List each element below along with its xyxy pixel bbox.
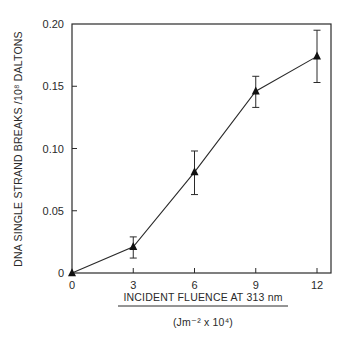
- error-bars: [130, 30, 321, 258]
- x-tick-label: 0: [69, 279, 75, 291]
- x-tick-label: 9: [253, 279, 259, 291]
- chart: 036912 00.050.100.150.20 DNA SINGLE STRA…: [0, 0, 349, 348]
- y-tick-label: 0.20: [43, 18, 64, 30]
- x-axis-ticks: 036912: [69, 268, 323, 291]
- y-tick-label: 0: [58, 267, 64, 279]
- triangle-marker-icon: [252, 86, 260, 94]
- x-axis-units-label: (Jm⁻² x 10⁴): [173, 316, 233, 328]
- x-tick-label: 12: [311, 279, 323, 291]
- y-tick-label: 0.15: [43, 80, 64, 92]
- y-tick-label: 0.10: [43, 143, 64, 155]
- y-axis-label: DNA SINGLE STRAND BREAKS /10⁸ DALTONS: [12, 31, 24, 267]
- triangle-marker-icon: [313, 52, 321, 60]
- plot-border: [72, 24, 331, 273]
- x-axis-label: INCIDENT FLUENCE AT 313 nm: [123, 291, 282, 303]
- x-tick-label: 6: [191, 279, 197, 291]
- plot-frame: [72, 24, 331, 273]
- y-tick-label: 0.05: [43, 205, 64, 217]
- x-tick-label: 3: [130, 279, 136, 291]
